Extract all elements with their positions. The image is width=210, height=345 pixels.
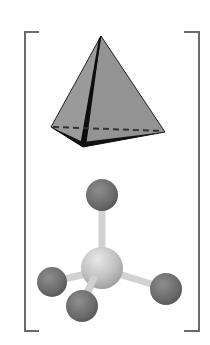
atom-left (37, 267, 67, 297)
atom-front (66, 290, 98, 322)
tetrahedral-geometry-figure (0, 0, 210, 345)
atom-right (150, 273, 182, 305)
right-bracket (184, 32, 199, 331)
ball-and-stick-model (37, 179, 182, 322)
atom-top (86, 179, 118, 211)
left-bracket (25, 32, 39, 331)
atom-central (81, 247, 123, 289)
tetrahedron-shape (51, 36, 165, 147)
